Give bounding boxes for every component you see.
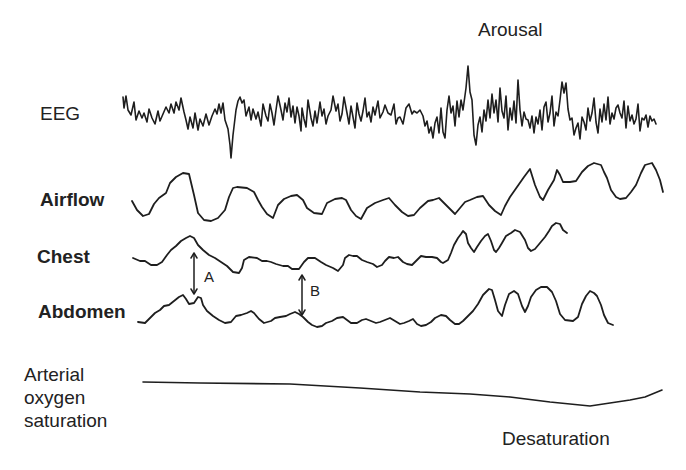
marker-a-arrow <box>191 253 197 294</box>
eeg-waveform <box>123 66 656 158</box>
abdomen-waveform <box>138 287 613 327</box>
waveform-canvas <box>0 0 686 470</box>
spo2-waveform <box>143 382 662 406</box>
chest-waveform <box>133 223 567 273</box>
marker-b-arrow <box>299 275 305 315</box>
airflow-waveform <box>132 163 663 221</box>
